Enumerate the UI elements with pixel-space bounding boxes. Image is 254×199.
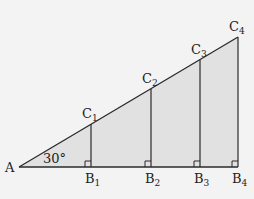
point-label-B2: B2 <box>145 171 160 188</box>
vertex-label-A: A <box>4 160 15 175</box>
triangle-diagram: A 30° B1B2B3B4 C1C2C3C4 <box>0 0 254 199</box>
base-point-labels: B1B2B3B4 <box>85 171 248 188</box>
angle-label: 30° <box>43 151 66 166</box>
point-label-C1: C1 <box>82 106 98 123</box>
diagram-canvas: A 30° B1B2B3B4 C1C2C3C4 <box>0 0 254 199</box>
point-label-B4: B4 <box>232 171 248 188</box>
point-label-C2: C2 <box>142 71 158 88</box>
point-label-C3: C3 <box>191 42 207 59</box>
point-label-B1: B1 <box>85 171 100 188</box>
point-label-C4: C4 <box>229 19 245 36</box>
point-label-B3: B3 <box>194 171 210 188</box>
